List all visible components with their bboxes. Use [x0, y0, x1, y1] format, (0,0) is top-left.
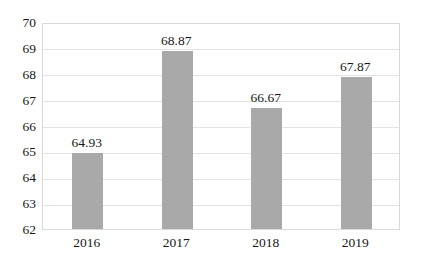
y-axis-tick-label: 63	[2, 197, 36, 211]
y-axis-tick-label: 62	[2, 223, 36, 237]
x-axis-tick-label-2018: 2018	[236, 236, 296, 250]
gridline	[43, 75, 399, 76]
y-axis-tick-label: 65	[2, 145, 36, 159]
value-label-2018: 66.67	[236, 91, 296, 105]
y-axis-tick-label: 64	[2, 171, 36, 185]
y-axis-tick-label: 68	[2, 68, 36, 82]
y-axis-tick-label: 70	[2, 16, 36, 30]
plot-area	[42, 23, 400, 230]
x-axis-tick-label-2016: 2016	[57, 236, 117, 250]
bar-2019[interactable]	[341, 77, 372, 229]
x-axis-tick-label-2019: 2019	[325, 236, 385, 250]
bar-chart: 706968676665646362 2016201720182019 64.9…	[0, 0, 421, 265]
bar-2017[interactable]	[162, 51, 193, 229]
gridline	[43, 49, 399, 50]
bar-2018[interactable]	[251, 108, 282, 229]
y-axis-tick-label: 66	[2, 120, 36, 134]
value-label-2017: 68.87	[146, 34, 206, 48]
x-axis-tick-label-2017: 2017	[146, 236, 206, 250]
value-label-2019: 67.87	[325, 60, 385, 74]
bar-2016[interactable]	[72, 153, 103, 229]
value-label-2016: 64.93	[57, 136, 117, 150]
y-axis-tick-label: 69	[2, 42, 36, 56]
y-axis-tick-label: 67	[2, 94, 36, 108]
x-axis: 2016201720182019	[42, 236, 400, 260]
